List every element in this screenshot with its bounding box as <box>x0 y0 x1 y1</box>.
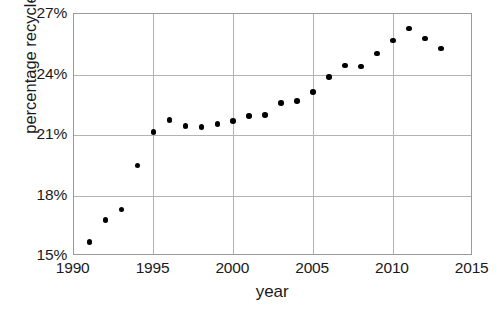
data-point <box>103 217 109 223</box>
gridline-horizontal <box>74 135 471 136</box>
data-point <box>151 129 157 135</box>
gridline-vertical <box>313 14 314 254</box>
gridline-vertical <box>233 14 234 254</box>
data-point <box>422 36 428 42</box>
y-tick-label: 24% <box>37 65 67 83</box>
x-tick-label: 2010 <box>375 259 409 277</box>
y-tick-label: 27% <box>37 4 67 22</box>
data-point <box>119 207 125 213</box>
data-point <box>390 38 396 44</box>
x-axis-label: year <box>73 282 472 302</box>
chart-figure: percentage recycled 15%18%21%24%27% 1990… <box>0 0 498 309</box>
data-point <box>278 100 284 106</box>
data-point <box>406 26 412 32</box>
y-tick-label: 18% <box>37 186 67 204</box>
data-point <box>438 46 444 52</box>
data-point <box>294 98 300 104</box>
gridline-horizontal <box>74 75 471 76</box>
data-point <box>246 113 252 119</box>
data-point <box>230 118 236 124</box>
data-point <box>358 64 364 70</box>
x-tick-label: 2015 <box>455 259 489 277</box>
gridline-vertical <box>393 14 394 254</box>
x-tick-label: 2000 <box>215 259 249 277</box>
data-point <box>374 51 380 57</box>
data-point <box>87 239 93 245</box>
data-point <box>167 117 173 123</box>
x-tick-label: 1995 <box>136 259 170 277</box>
x-tick-label: 1990 <box>56 259 90 277</box>
plot-area <box>73 13 472 255</box>
x-tick-label: 2005 <box>295 259 329 277</box>
data-point <box>262 112 268 118</box>
data-point <box>342 63 348 69</box>
data-point <box>326 74 332 80</box>
data-point <box>199 124 205 130</box>
data-point <box>310 89 316 95</box>
y-tick-label: 21% <box>37 125 67 143</box>
data-point <box>135 163 141 169</box>
gridline-horizontal <box>74 196 471 197</box>
data-point <box>183 123 189 129</box>
data-point <box>215 121 221 127</box>
